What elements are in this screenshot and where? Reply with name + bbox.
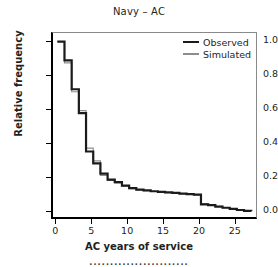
legend-label-observed: Observed [203, 37, 249, 48]
chart-title: Navy – AC [0, 6, 278, 17]
x-tick-label: 10 [115, 225, 139, 236]
plot-area [51, 32, 257, 219]
x-tick-label: 5 [79, 225, 103, 236]
legend-item-simulated: Simulated [183, 48, 251, 60]
x-tick-label: 15 [151, 225, 175, 236]
legend-label-simulated: Simulated [203, 49, 251, 60]
x-tick-mark [235, 219, 236, 224]
x-tick-label: 20 [187, 225, 211, 236]
legend-item-observed: Observed [183, 36, 251, 48]
legend-swatch-simulated [183, 53, 199, 54]
x-tick-mark [163, 219, 164, 224]
x-tick-label: 25 [223, 225, 247, 236]
x-axis-label: AC years of service [0, 241, 278, 252]
chart-figure: Navy – AC Relative frequency 0.00.20.40.… [0, 0, 278, 267]
chart-legend: Observed Simulated [183, 36, 251, 60]
y-axis-label: Relative frequency [13, 4, 24, 164]
x-tick-mark [127, 219, 128, 224]
legend-swatch-observed [183, 41, 199, 43]
clipped-footer-text: ························ [0, 260, 278, 267]
x-tick-mark [55, 219, 56, 224]
series-line-observed [57, 42, 251, 212]
x-tick-label: 0 [43, 225, 67, 236]
x-tick-mark [91, 219, 92, 224]
x-tick-mark [199, 219, 200, 224]
series-plot [53, 33, 257, 218]
